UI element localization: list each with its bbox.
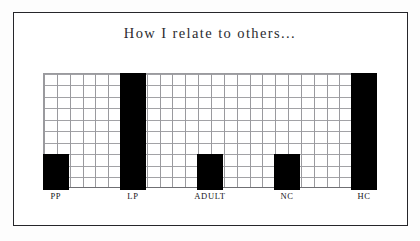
category-axis: PPLPADULTNCHC (43, 191, 377, 207)
bar (197, 154, 223, 191)
bar (274, 154, 300, 191)
category-label: LP (127, 191, 138, 201)
chart-screenshot: How I relate to others... PPLPADULTNCHC (0, 0, 420, 241)
plot-area (43, 73, 377, 188)
category-label: HC (358, 191, 371, 201)
bar-series (43, 73, 377, 188)
category-label: ADULT (194, 191, 226, 201)
bar (120, 73, 146, 190)
bar (43, 154, 69, 191)
category-label: NC (280, 191, 293, 201)
chart-title: How I relate to others... (0, 25, 420, 42)
bar (351, 73, 377, 190)
category-label: PP (50, 191, 61, 201)
